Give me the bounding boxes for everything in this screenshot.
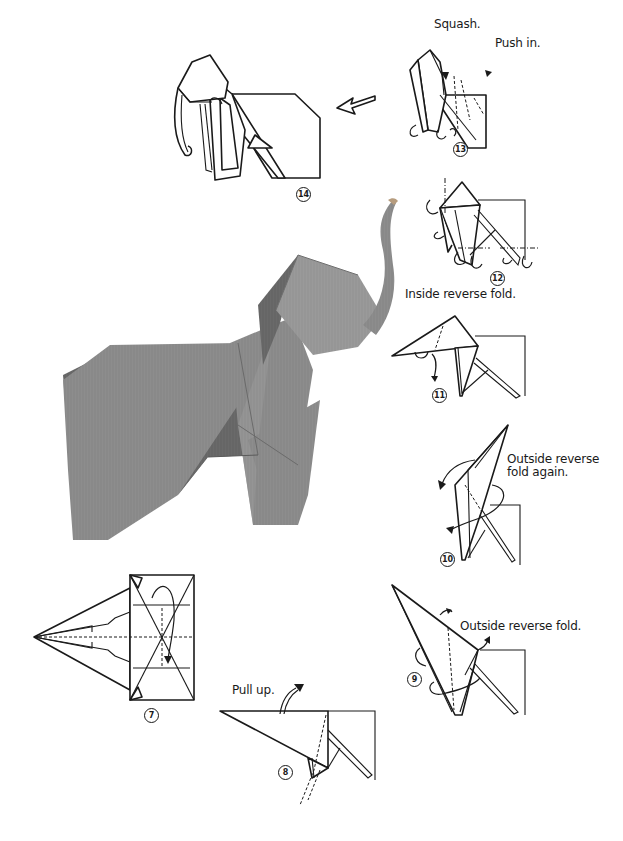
step-number-11: 11: [432, 388, 447, 403]
step-8-diagram: Pull up. 8: [200, 670, 400, 840]
instruction-outside-reverse-fold: Outside reverse fold.: [460, 620, 581, 633]
origami-elephant-photo-image: [58, 195, 408, 545]
instruction-push-in: Push in.: [495, 37, 540, 50]
step-9-drawing: [390, 580, 610, 730]
step-10-diagram: Outside reverse fold again. 10: [420, 410, 610, 570]
elephant-finished-drawing: [160, 40, 390, 200]
instruction-squash: Squash.: [434, 18, 480, 31]
step-14-diagram: 14: [160, 40, 390, 200]
finished-elephant-photo: [58, 195, 408, 545]
step-7-drawing: [20, 560, 220, 730]
step-number-10: 10: [440, 552, 455, 567]
step-number-9: 9: [407, 672, 422, 687]
step-number-7: 7: [144, 708, 159, 723]
next-step-arrow: [335, 90, 385, 120]
step-12-drawing: [400, 170, 560, 290]
instruction-outside-reverse-fold-again-line2: fold again.: [507, 466, 568, 479]
step-number-12: 12: [490, 271, 505, 286]
step-8-drawing: [200, 670, 400, 840]
step-number-13: 13: [453, 142, 468, 157]
step-number-8: 8: [278, 765, 293, 780]
step-7-diagram: 7: [20, 560, 220, 730]
step-9-diagram: Outside reverse fold. 9: [390, 580, 610, 730]
hollow-arrow-left-icon: [335, 90, 385, 120]
step-10-drawing: [420, 410, 610, 570]
step-12-diagram: 12: [400, 170, 560, 290]
step-13-diagram: Squash. Push in. 13: [398, 20, 598, 160]
